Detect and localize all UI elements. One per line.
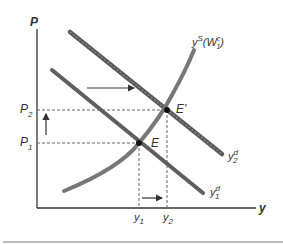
equilibrium-point-e-prime bbox=[164, 107, 170, 113]
p2-label: P2 bbox=[20, 102, 33, 119]
y2-label: y2 bbox=[162, 211, 174, 226]
demand-curve-1-label: yd1 bbox=[209, 184, 221, 201]
economics-diagram: P y P2 P1 y1 y2 E E' yS(Wc1) yd2 yd1 bbox=[0, 0, 283, 244]
point-e-label: E bbox=[151, 136, 160, 150]
supply-curve-label: yS(Wc1) bbox=[191, 34, 224, 50]
point-e-prime-label: E' bbox=[176, 102, 187, 116]
y-axis-label: P bbox=[30, 15, 39, 29]
y1-label: y1 bbox=[133, 211, 144, 226]
p1-label: P1 bbox=[20, 135, 32, 152]
equilibrium-point-e bbox=[136, 140, 142, 146]
x-axis-label: y bbox=[258, 201, 267, 215]
demand-curve-2-label: yd2 bbox=[227, 148, 239, 165]
